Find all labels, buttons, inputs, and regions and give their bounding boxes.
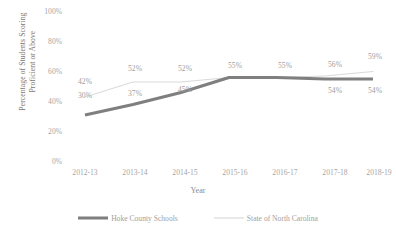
- legend-item-state-of-north-carolina[interactable]: State of North Carolina: [214, 214, 318, 223]
- x-tick-label-2013-14: 2013-14: [112, 168, 158, 177]
- data-label-hoke-2018-19: 54%: [362, 86, 388, 95]
- data-label-state-2012-13: 42%: [72, 77, 98, 86]
- legend-swatch-state-of-north-carolina: [214, 214, 244, 222]
- x-tick-label-2014-15: 2014-15: [162, 168, 208, 177]
- data-label-state-2018-19: 59%: [362, 52, 388, 61]
- y-tick-label-100: 100%: [32, 7, 62, 16]
- y-tick-label-60: 60%: [32, 67, 62, 76]
- x-tick-label-2015-16: 2015-16: [212, 168, 258, 177]
- data-label-hoke-2014-15: 45%: [172, 85, 198, 94]
- plot-area: [68, 10, 390, 160]
- data-label-hoke-2013-14: 37%: [122, 89, 148, 98]
- data-label-state-2017-18: 56%: [322, 60, 348, 69]
- x-tick-label-2018-19: 2018-19: [356, 168, 396, 177]
- data-label-state-2016-17: 55%: [272, 61, 298, 70]
- legend-label-hoke-county-schools: Hoke County Schools: [111, 214, 178, 223]
- legend-label-state-of-north-carolina: State of North Carolina: [247, 214, 318, 223]
- legend-item-hoke-county-schools[interactable]: Hoke County Schools: [78, 214, 178, 223]
- x-tick-label-2017-18: 2017-18: [312, 168, 358, 177]
- x-axis-title: Year: [0, 186, 396, 195]
- data-label-state-2015-16: 55%: [222, 61, 248, 70]
- x-tick-label-2016-17: 2016-17: [262, 168, 308, 177]
- y-tick-label-40: 40%: [32, 97, 62, 106]
- data-label-hoke-2017-18: 54%: [322, 86, 348, 95]
- series-lines: [68, 10, 390, 160]
- chart-legend: Hoke County Schools State of North Carol…: [0, 208, 396, 228]
- y-tick-label-0: 0%: [32, 157, 62, 166]
- data-label-state-2014-15: 52%: [172, 64, 198, 73]
- line-chart: Percentage of Students Scoring Proficien…: [0, 0, 396, 235]
- data-label-state-2013-14: 52%: [122, 64, 148, 73]
- y-tick-label-20: 20%: [32, 127, 62, 136]
- x-tick-label-2012-13: 2012-13: [62, 168, 108, 177]
- y-tick-label-80: 80%: [32, 37, 62, 46]
- data-label-hoke-2012-13: 30%: [72, 91, 98, 100]
- legend-swatch-hoke-county-schools: [78, 214, 108, 222]
- y-axis-title-line1: Percentage of Students Scoring: [18, 0, 28, 142]
